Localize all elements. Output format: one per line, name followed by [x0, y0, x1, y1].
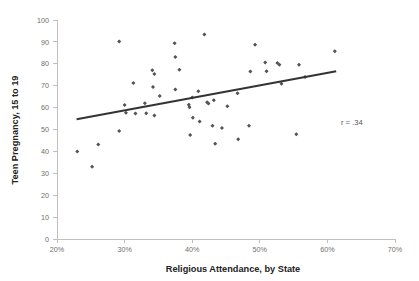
y-tick-label: 0 [45, 235, 49, 244]
x-tick-label: 60% [320, 245, 335, 254]
data-point-core [118, 130, 120, 132]
data-point-core [207, 102, 209, 104]
x-axis-ticks [57, 239, 395, 243]
data-point-core [123, 104, 125, 106]
data-point-core [159, 95, 161, 97]
data-point-core [153, 73, 155, 75]
x-axis-title: Religious Attendance, by State [166, 264, 300, 274]
correlation-annotation: r = .34 [341, 118, 363, 127]
data-point-core [178, 69, 180, 71]
y-tick-label: 30 [41, 169, 49, 178]
data-point-core [144, 102, 146, 104]
data-point-core [198, 120, 200, 122]
data-point-core [97, 143, 99, 145]
data-point-core [152, 86, 154, 88]
data-point-core [134, 112, 136, 114]
data-point-core [248, 125, 250, 127]
data-point-core [91, 166, 93, 168]
y-tick-label: 60 [41, 103, 49, 112]
chart-annotations: r = .34 [341, 118, 363, 127]
chart-canvas: 0102030405060708090100 20%30%40%50%60%70… [0, 0, 419, 281]
data-point-core [173, 42, 175, 44]
y-tick-label: 20 [41, 191, 49, 200]
data-point-core [254, 44, 256, 46]
x-tick-label: 20% [50, 245, 65, 254]
data-point-core [118, 40, 120, 42]
data-point-core [197, 90, 199, 92]
data-points [75, 32, 337, 168]
data-point-core [188, 106, 190, 108]
scatter-chart: 0102030405060708090100 20%30%40%50%60%70… [0, 0, 419, 281]
x-axis-tick-labels: 20%30%40%50%60%70% [50, 245, 403, 254]
data-point-core [203, 33, 205, 35]
data-point-core [249, 70, 251, 72]
data-point-core [132, 82, 134, 84]
data-point-core [213, 99, 215, 101]
x-tick-label: 40% [185, 245, 200, 254]
y-axis: 0102030405060708090100 [37, 16, 57, 244]
data-point-core [280, 83, 282, 85]
x-tick-label: 30% [117, 245, 132, 254]
data-point-core [125, 112, 127, 114]
data-point-core [211, 125, 213, 127]
data-point-core [334, 50, 336, 52]
y-axis-title: Teen Pregnancy, 15 to 19 [10, 76, 20, 185]
data-point-core [214, 143, 216, 145]
data-point-core [145, 112, 147, 114]
data-point-core [265, 70, 267, 72]
data-point-core [295, 133, 297, 135]
y-tick-label: 100 [37, 16, 49, 25]
x-tick-label: 50% [253, 245, 268, 254]
data-point-core [192, 117, 194, 119]
y-tick-label: 10 [41, 213, 49, 222]
y-tick-label: 70 [41, 81, 49, 90]
data-point-core [189, 134, 191, 136]
data-point-core [76, 150, 78, 152]
data-point-core [174, 56, 176, 58]
y-tick-label: 90 [41, 38, 49, 47]
y-tick-label: 80 [41, 59, 49, 68]
data-point-core [226, 105, 228, 107]
y-tick-label: 50 [41, 125, 49, 134]
data-point-core [298, 64, 300, 66]
data-point-core [221, 127, 223, 129]
data-point-core [153, 114, 155, 116]
y-axis-ticks [53, 20, 57, 239]
data-point-core [174, 88, 176, 90]
y-tick-label: 40 [41, 147, 49, 156]
data-point-core [236, 92, 238, 94]
y-axis-tick-labels: 0102030405060708090100 [37, 16, 49, 244]
data-point-core [237, 138, 239, 140]
data-point-core [151, 69, 153, 71]
x-axis: 20%30%40%50%60%70% [50, 239, 403, 254]
data-point-core [278, 64, 280, 66]
data-point-core [276, 62, 278, 64]
data-point-core [264, 61, 266, 63]
trend-line [77, 71, 337, 119]
x-tick-label: 70% [388, 245, 403, 254]
